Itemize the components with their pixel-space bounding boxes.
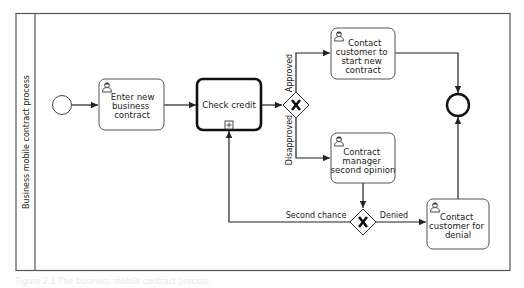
subprocess-check-credit[interactable]: Check credit	[197, 79, 261, 130]
collapsed-subprocess-plus-icon[interactable]	[225, 121, 233, 129]
task-label-line: contract	[114, 110, 150, 120]
flow-label-approved: Approved	[285, 54, 294, 92]
flow-approved	[296, 53, 330, 92]
end-event[interactable]	[447, 94, 469, 116]
bpmn-diagram: Business mobile contract process Approve…	[0, 0, 524, 288]
flow-disapproved	[296, 118, 330, 158]
exclusive-gateway-credit-decision[interactable]	[283, 92, 309, 118]
figure-caption: Figure 2.1 The business mobile contract …	[16, 277, 516, 287]
task-label: Check credit	[202, 100, 256, 110]
task-enter-new-business-contract[interactable]: Enter new business contract	[99, 79, 164, 130]
start-event[interactable]	[53, 96, 72, 115]
task-contract-manager-second-opinion[interactable]: Contract manager second opinion	[330, 133, 395, 183]
flow-label-disapproved: Disapproved	[285, 115, 294, 165]
sequence-flows	[72, 53, 458, 222]
flow-label-denied: Denied	[380, 211, 408, 220]
task-contact-customer-start-contract[interactable]: Contact customer to start new contract	[331, 28, 395, 79]
flow-contact-to-end	[395, 53, 458, 93]
exclusive-gateway-second-opinion[interactable]	[350, 209, 376, 235]
task-contact-customer-denial[interactable]: Contact customer for denial	[427, 199, 489, 249]
pool-label: Business mobile contract process	[22, 75, 31, 209]
flow-label-second-chance: Second chance	[286, 211, 347, 220]
